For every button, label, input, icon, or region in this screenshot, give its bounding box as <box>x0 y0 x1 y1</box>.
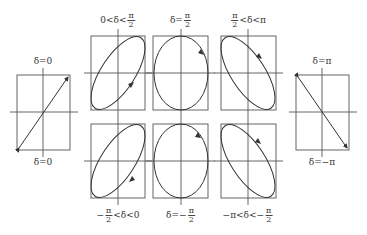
label-delta-neg-pi2-to-0: −π2<δ<0 <box>96 207 139 224</box>
label-delta-0-top: δ=0 <box>34 56 53 66</box>
label-delta-pi-top: δ=π <box>313 56 332 66</box>
panel-delta-neg-pi2-to-0 <box>81 117 155 206</box>
direction-arrow-icon <box>256 53 262 59</box>
panel-delta-pi2-to-pi <box>211 29 285 118</box>
label-delta-pi-bottom: δ=−π <box>309 157 335 167</box>
label-delta-0-to-pi2: 0<δ<π2 <box>100 12 136 29</box>
label-delta-neg-pi2: δ=−π2 <box>166 207 196 224</box>
panel-delta-pi <box>289 68 357 157</box>
polarization-diagram <box>0 0 367 235</box>
panel-delta-0 <box>10 68 78 157</box>
panel-delta-neg-pi2 <box>146 117 215 205</box>
linear-polarization-line <box>298 77 347 148</box>
linear-polarization-line <box>19 77 68 148</box>
panel-delta-0-to-pi2 <box>81 29 155 118</box>
panel-delta-neg-pi-to-neg-pi2 <box>211 117 285 206</box>
direction-arrow-icon <box>129 176 135 182</box>
panel-delta-pi2 <box>146 29 215 117</box>
label-delta-0-bottom: δ=0 <box>34 157 53 167</box>
label-delta-pi2: δ=π2 <box>170 12 192 29</box>
label-delta-neg-pi-to-neg-pi2: −π<δ<−π2 <box>223 207 274 224</box>
label-delta-pi2-to-pi: π2<δ<π <box>230 12 266 29</box>
